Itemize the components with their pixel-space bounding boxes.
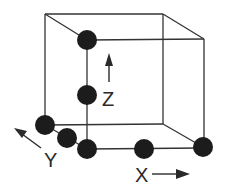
z-axis-label: Z <box>102 88 114 110</box>
x-axis-arrow-icon <box>152 169 190 179</box>
atom-origin <box>77 139 97 159</box>
atom-mid-x <box>134 139 154 159</box>
atom-mid-z <box>77 85 97 105</box>
atom-mid-y <box>57 128 77 148</box>
y-axis-arrow-icon <box>14 128 41 148</box>
atom-front-bottom-right <box>193 137 213 157</box>
z-axis-arrow-icon <box>105 53 113 82</box>
x-axis-label: X <box>135 164 148 186</box>
atom-top-front-left <box>77 30 97 50</box>
cube-diagram: Z Y X <box>0 0 227 193</box>
atom-back-bottom-left <box>35 115 55 135</box>
atoms <box>35 30 213 159</box>
y-axis-label: Y <box>44 149 57 171</box>
